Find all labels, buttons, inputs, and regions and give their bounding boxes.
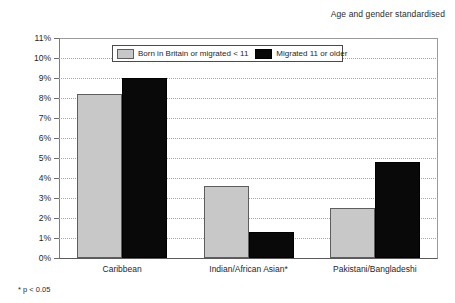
y-axis-tick: [54, 138, 59, 139]
legend-swatch-icon: [255, 49, 272, 59]
bar: [249, 232, 294, 258]
y-axis-tick: [54, 38, 59, 39]
y-axis-tick-label: 4%: [39, 173, 51, 183]
y-axis-tick: [54, 98, 59, 99]
legend-item: Migrated 11 or older: [255, 49, 347, 59]
footnote: * p < 0.05: [18, 285, 50, 294]
bar: [77, 94, 122, 258]
x-axis-category-label: Indian/African Asian*: [209, 264, 287, 274]
y-axis-tick-label: 5%: [39, 153, 51, 163]
y-axis-tick: [54, 78, 59, 79]
chart-subtitle: Age and gender standardised: [331, 9, 445, 19]
x-axis-category-label: Pakistani/Bangladeshi: [333, 264, 417, 274]
y-axis-tick: [54, 58, 59, 59]
y-axis-tick: [54, 158, 59, 159]
y-axis-tick: [54, 178, 59, 179]
y-axis-tick-label: 2%: [39, 213, 51, 223]
bar: [122, 78, 167, 258]
y-axis-tick: [54, 218, 59, 219]
y-axis-tick-label: 0%: [39, 253, 51, 263]
y-axis-tick: [54, 238, 59, 239]
bar: [204, 186, 249, 258]
y-axis-tick-label: 1%: [39, 233, 51, 243]
y-axis-tick-label: 8%: [39, 93, 51, 103]
chart-figure: Age and gender standardised 0%1%2%3%4%5%…: [0, 0, 455, 303]
chart-legend: Born in Britain or migrated < 11Migrated…: [112, 45, 343, 62]
y-axis-tick: [54, 258, 59, 259]
gridline: [59, 78, 438, 79]
y-axis-tick-label: 9%: [39, 73, 51, 83]
y-axis-tick-label: 7%: [39, 113, 51, 123]
bar: [330, 208, 375, 258]
y-axis-tick-label: 3%: [39, 193, 51, 203]
bar: [375, 162, 420, 258]
y-axis-tick-label: 11%: [35, 33, 51, 43]
y-axis-tick: [54, 198, 59, 199]
legend-label: Migrated 11 or older: [276, 49, 347, 58]
legend-label: Born in Britain or migrated < 11: [138, 49, 248, 58]
y-axis-tick-label: 10%: [34, 53, 51, 63]
y-axis-tick-label: 6%: [39, 133, 51, 143]
legend-swatch-icon: [117, 49, 134, 59]
legend-item: Born in Britain or migrated < 11: [117, 49, 248, 59]
x-axis-category-label: Caribbean: [103, 264, 142, 274]
y-axis-tick: [54, 118, 59, 119]
